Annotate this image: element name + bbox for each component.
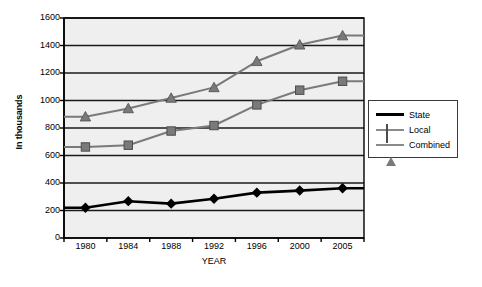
marker [338, 77, 346, 85]
square-marker-icon [386, 125, 396, 135]
data-point-local-1984 [124, 141, 132, 149]
x-tick-label-1988: 1988 [149, 241, 193, 252]
x-tick-label-1984: 1984 [106, 241, 150, 252]
y-tick-label-1200: 1200 [30, 68, 60, 77]
x-tick-label-1992: 1992 [192, 241, 236, 252]
y-tick-label-400: 400 [30, 178, 60, 187]
marker [167, 127, 175, 135]
x-tick-label-2005: 2005 [321, 241, 365, 252]
legend-key-state [375, 109, 405, 121]
data-point-local-2005 [338, 77, 346, 85]
legend-key-local [375, 124, 405, 136]
y-tick-label-1000: 1000 [30, 96, 60, 105]
legend-item-local: Local [369, 122, 457, 137]
triangle-marker-icon [386, 140, 396, 150]
line-chart: In thousands 020040060080010001200140016… [0, 0, 482, 287]
x-tick-label-1980: 1980 [63, 241, 107, 252]
marker [253, 101, 261, 109]
chart-legend: State Local Combined [368, 100, 458, 158]
x-axis-title: YEAR [64, 256, 364, 266]
diamond-marker-icon [386, 110, 396, 120]
legend-label-combined: Combined [405, 140, 450, 150]
x-tick-label-1996: 1996 [235, 241, 279, 252]
legend-label-state: State [405, 110, 430, 120]
y-tick-label-200: 200 [30, 206, 60, 215]
marker [210, 121, 218, 129]
marker [296, 86, 304, 94]
data-point-local-1980 [81, 143, 89, 151]
x-axis-tick-labels: 1980198419881992199620002005 [64, 241, 364, 255]
y-axis-tick-labels: 02004006008001000120014001600 [28, 0, 60, 287]
legend-label-local: Local [405, 125, 431, 135]
data-point-local-2000 [296, 86, 304, 94]
data-point-local-1996 [253, 101, 261, 109]
marker [81, 143, 89, 151]
marker [124, 141, 132, 149]
legend-key-combined [375, 139, 405, 151]
legend-item-state: State [369, 107, 457, 122]
legend-item-combined: Combined [369, 137, 457, 152]
data-point-local-1992 [210, 121, 218, 129]
x-tick-label-2000: 2000 [278, 241, 322, 252]
y-tick-label-600: 600 [30, 151, 60, 160]
y-tick-label-0: 0 [30, 233, 60, 242]
y-tick-label-1400: 1400 [30, 41, 60, 50]
y-tick-label-1600: 1600 [30, 13, 60, 22]
y-axis-title: In thousands [14, 72, 24, 172]
y-tick-label-800: 800 [30, 123, 60, 132]
data-point-local-1988 [167, 127, 175, 135]
